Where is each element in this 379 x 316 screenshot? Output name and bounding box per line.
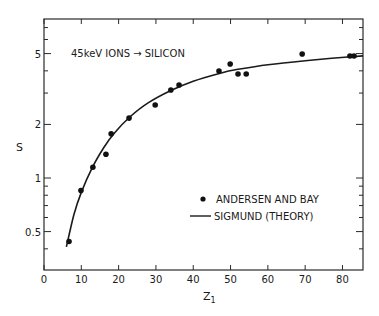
data-point: [351, 53, 357, 59]
y-axis-label: S: [16, 141, 23, 154]
data-point: [108, 131, 114, 137]
x-axis-label-subscript: 1: [211, 296, 216, 305]
data-point: [103, 151, 109, 157]
x-axis-label: Z1: [203, 290, 216, 305]
y-tick-label: 2: [35, 119, 41, 130]
data-point: [227, 61, 233, 67]
legend-label-theory: SIGMUND (THEORY): [214, 211, 313, 222]
data-point: [299, 51, 305, 57]
data-point: [216, 68, 222, 74]
x-tick-label: 60: [261, 274, 274, 285]
legend: ANDERSEN AND BAYSIGMUND (THEORY): [190, 194, 320, 222]
legend-label-data: ANDERSEN AND BAY: [216, 194, 320, 205]
legend-marker-dot: [200, 196, 205, 201]
data-point: [235, 71, 241, 77]
x-tick-label: 10: [75, 274, 88, 285]
data-point: [126, 115, 132, 121]
y-tick-label: 1: [35, 173, 41, 184]
data-point: [152, 102, 158, 108]
data-point: [243, 71, 249, 77]
chart-annotation: 45keV IONS → SILICON: [71, 48, 185, 59]
data-point: [78, 188, 84, 194]
x-tick-label: 30: [150, 274, 163, 285]
data-point: [90, 164, 96, 170]
x-tick-label: 40: [187, 274, 200, 285]
x-tick-label: 70: [299, 274, 312, 285]
data-point: [168, 87, 174, 93]
y-tick-label: 5: [35, 49, 41, 60]
data-point: [66, 239, 72, 245]
y-tick-label: 0.5: [25, 227, 41, 238]
chart: 010203040506070800.5125 45keV IONS → SIL…: [0, 0, 379, 316]
data-point: [176, 82, 182, 88]
x-tick-label: 50: [224, 274, 237, 285]
x-tick-label: 20: [112, 274, 125, 285]
x-tick-label: 0: [41, 274, 47, 285]
x-tick-label: 80: [336, 274, 349, 285]
